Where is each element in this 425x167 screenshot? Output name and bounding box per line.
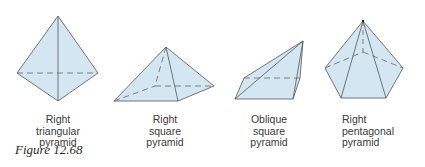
label-line: Right <box>18 114 98 126</box>
right-pentagonal-pyramid-drawing <box>325 20 403 98</box>
label-right-square-pyramid: Right square pyramid <box>125 114 205 149</box>
oblique-square-pyramid-drawing <box>235 41 303 99</box>
label-line: pyramid <box>125 137 205 149</box>
label-line: Oblique <box>229 114 309 126</box>
label-line: pyramid <box>229 137 309 149</box>
right-triangular-pyramid-drawing <box>17 16 98 101</box>
label-right-pentagonal-pyramid: Right pentagonal pyramid <box>342 114 422 149</box>
label-oblique-square-pyramid: Oblique square pyramid <box>229 114 309 149</box>
label-line: Right <box>125 114 205 126</box>
label-line: Right <box>342 114 422 126</box>
figure-caption: Figure 12.68 <box>15 142 82 158</box>
right-square-pyramid-drawing <box>114 47 214 101</box>
label-line: pyramid <box>342 137 422 149</box>
